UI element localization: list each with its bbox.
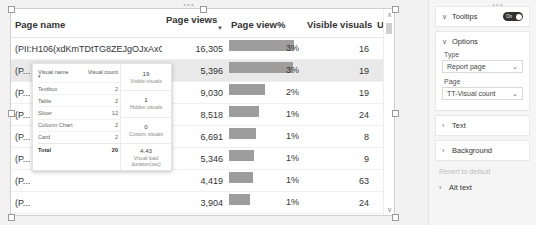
toggle-label: On bbox=[506, 13, 512, 21]
selection-handle-top-center[interactable] bbox=[200, 6, 207, 13]
background-section[interactable]: › Background bbox=[435, 140, 530, 161]
text-section[interactable]: › Text bbox=[435, 115, 530, 136]
alt-text-section-header[interactable]: › Alt text bbox=[435, 180, 530, 192]
bar-value-label: 3% bbox=[231, 63, 299, 78]
tooltip-cell-visual-name: Table bbox=[38, 95, 79, 107]
tooltip-table-row: Table2 bbox=[38, 95, 120, 107]
chevron-down-icon: ⌄ bbox=[512, 63, 518, 71]
chevron-down-icon: ∨ bbox=[442, 38, 448, 46]
text-section-title: Text bbox=[452, 121, 466, 130]
table-row[interactable]: (PII:H106(OFFK0ONX+EdO9RCGKaf...3,3431%2… bbox=[11, 214, 395, 217]
tooltip-table-row: Card2 bbox=[38, 131, 120, 143]
selection-handle-top-right[interactable] bbox=[392, 6, 399, 13]
tooltip-cards-section: 19 Visible visuals 1 Hidden visuals 0 Cu… bbox=[120, 64, 171, 170]
tooltip-cell-visual-name: Slicer bbox=[38, 107, 79, 119]
column-header-page-views[interactable]: Page views ▼ bbox=[162, 9, 227, 38]
column-header-visible-visuals[interactable]: Visible visuals bbox=[303, 9, 373, 38]
selection-handle-middle-left[interactable] bbox=[8, 110, 15, 117]
pane-handle[interactable]: ••• bbox=[487, 2, 509, 8]
alt-text-title: Alt text bbox=[449, 183, 472, 192]
card-value: 19 bbox=[143, 70, 150, 78]
bar-value-label: 1% bbox=[231, 195, 299, 210]
card-label: Visible visuals bbox=[130, 78, 161, 85]
cell-page-name: (P... bbox=[11, 170, 162, 192]
cell-visible-visuals: 63 bbox=[303, 170, 373, 192]
chevron-down-icon: ∨ bbox=[442, 13, 448, 21]
tooltip-cell-visual-name: Textbox bbox=[38, 83, 79, 95]
scrollbar-thumb[interactable] bbox=[386, 23, 392, 34]
card-visible-visuals: 19 Visible visuals bbox=[121, 64, 171, 91]
bar-value-label: 1% bbox=[231, 129, 299, 144]
revert-to-default-button[interactable]: Revert to default bbox=[435, 165, 530, 180]
tooltip-table-section: Visual name ▾ Visual count Textbox2Table… bbox=[33, 64, 120, 170]
column-header-label: Visible visuals bbox=[307, 19, 372, 30]
tooltip-table-body: Textbox2Table2Slicer12Column Chart2Card2… bbox=[38, 83, 120, 156]
toggle-knob bbox=[516, 14, 522, 20]
chevron-down-icon: ⌄ bbox=[512, 90, 518, 98]
cell-page-view-pct: 1% bbox=[227, 192, 303, 214]
type-field-label: Type bbox=[444, 51, 523, 58]
page-dropdown[interactable]: TT-Visual count ⌄ bbox=[442, 87, 523, 100]
table-header-row: Page name Page views ▼ Page view% Visibl… bbox=[11, 9, 395, 38]
tooltips-header[interactable]: ∨ Tooltips On bbox=[442, 12, 523, 21]
report-page-tooltip: Visual name ▾ Visual count Textbox2Table… bbox=[32, 63, 172, 171]
card-value: 4.43 bbox=[140, 147, 152, 155]
column-header-page-name[interactable]: Page name bbox=[11, 9, 162, 38]
card-custom-visuals: 0 Custom visuals bbox=[121, 118, 171, 145]
cell-page-name: (PII:H106(OFFK0ONX+EdO9RCGKaf... bbox=[11, 214, 162, 217]
tooltip-cell-visual-count: 2 bbox=[79, 131, 120, 143]
table-row[interactable]: (P...4,4191%631 bbox=[11, 170, 395, 192]
tooltip-total-label: Total bbox=[38, 143, 79, 155]
tooltip-column-header-visual-count: Visual count bbox=[79, 69, 120, 83]
options-card: ∨ Options Type Report page ⌄ Page TT-Vis… bbox=[435, 31, 530, 111]
tooltip-cell-visual-count: 12 bbox=[79, 107, 120, 119]
tooltips-toggle[interactable]: On bbox=[503, 12, 523, 21]
card-value: 1 bbox=[144, 96, 147, 104]
options-title: Options bbox=[452, 37, 478, 46]
cell-page-view-pct: 3% bbox=[227, 38, 303, 60]
tooltip-cell-visual-count: 2 bbox=[79, 119, 120, 131]
cell-visible-visuals: 19 bbox=[303, 82, 373, 104]
column-header-label: Page views bbox=[166, 14, 217, 25]
cell-visible-visuals: 24 bbox=[303, 192, 373, 214]
card-label: Hidden visuals bbox=[130, 104, 163, 111]
cell-page-view-pct: 1% bbox=[227, 214, 303, 217]
cell-visible-visuals: 9 bbox=[303, 148, 373, 170]
tooltip-column-label: Visual name bbox=[38, 69, 69, 75]
text-section-header[interactable]: › Text bbox=[442, 121, 523, 130]
column-header-label: Page name bbox=[15, 19, 65, 30]
selection-handle-top-left[interactable] bbox=[8, 6, 15, 13]
bar-value-label: 1% bbox=[231, 107, 299, 122]
card-visual-load-duration: 4.43 Visual load duration(sec) bbox=[121, 144, 171, 170]
type-dropdown-value: Report page bbox=[447, 63, 486, 70]
type-dropdown[interactable]: Report page ⌄ bbox=[442, 60, 523, 73]
table-row[interactable]: (P...3,9041%241 bbox=[11, 192, 395, 214]
sort-descending-icon: ▼ bbox=[166, 26, 223, 30]
cell-page-name: (PII:H106(xdKmTDtTG8ZEJgOJxAxO... bbox=[11, 38, 162, 60]
cell-page-view-pct: 1% bbox=[227, 126, 303, 148]
bar-value-label: 1% bbox=[231, 151, 299, 166]
sort-indicator-icon: ▾ bbox=[38, 75, 76, 78]
card-hidden-visuals: 1 Hidden visuals bbox=[121, 91, 171, 118]
selection-handle-middle-right[interactable] bbox=[392, 110, 399, 117]
selection-handle-bottom-left[interactable] bbox=[8, 214, 15, 221]
tooltip-cell-visual-name: Column Chart bbox=[38, 119, 79, 131]
cell-page-views: 3,343 bbox=[162, 214, 227, 217]
cell-page-views: 16,305 bbox=[162, 38, 227, 60]
tooltip-table-row: Column Chart2 bbox=[38, 119, 120, 131]
column-header-page-view-pct[interactable]: Page view% bbox=[227, 9, 303, 38]
cell-page-views: 3,904 bbox=[162, 192, 227, 214]
tooltip-visual-table: Visual name ▾ Visual count Textbox2Table… bbox=[38, 69, 120, 155]
tooltip-total-count: 20 bbox=[79, 143, 120, 155]
tooltip-column-label: Visual count bbox=[88, 69, 118, 75]
selection-handle-bottom-right[interactable] bbox=[392, 214, 399, 221]
tooltip-column-header-visual-name: Visual name ▾ bbox=[38, 69, 79, 83]
options-header[interactable]: ∨ Options bbox=[442, 37, 523, 46]
table-row[interactable]: (PII:H106(xdKmTDtTG8ZEJgOJxAxO...16,3053… bbox=[11, 38, 395, 60]
bar-value-label: 1% bbox=[231, 173, 299, 188]
cell-page-view-pct: 1% bbox=[227, 104, 303, 126]
cell-visible-visuals: 16 bbox=[303, 38, 373, 60]
cell-page-views: 4,419 bbox=[162, 170, 227, 192]
background-section-header[interactable]: › Background bbox=[442, 146, 523, 155]
cell-page-name: (P... bbox=[11, 192, 162, 214]
